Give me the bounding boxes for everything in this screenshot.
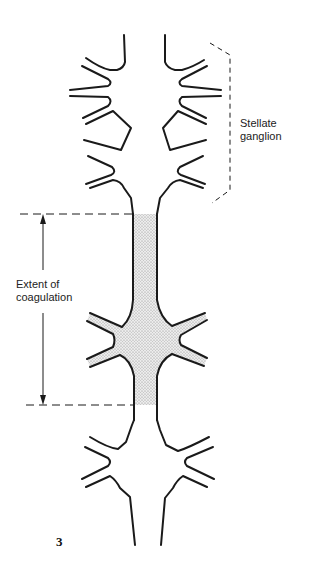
extent-label-line1: Extent of	[16, 278, 72, 291]
figure-number: 3	[56, 534, 63, 550]
arrow-down-icon	[40, 395, 46, 405]
lower-ganglion	[82, 420, 214, 545]
extent-label-line2: coagulation	[16, 291, 72, 304]
stellate-bracket	[210, 43, 230, 203]
arrow-up-icon	[40, 214, 46, 224]
upper-ganglion-right	[157, 35, 221, 214]
coagulation-extent-markers	[20, 214, 133, 405]
upper-ganglion-left	[70, 35, 133, 214]
stellate-ganglion-label: Stellate ganglion	[240, 117, 282, 143]
coagulation-stipple	[87, 214, 207, 405]
stellate-label-line1: Stellate	[240, 117, 282, 130]
stellate-label-line2: ganglion	[240, 130, 282, 143]
extent-of-coagulation-label: Extent of coagulation	[16, 278, 72, 304]
